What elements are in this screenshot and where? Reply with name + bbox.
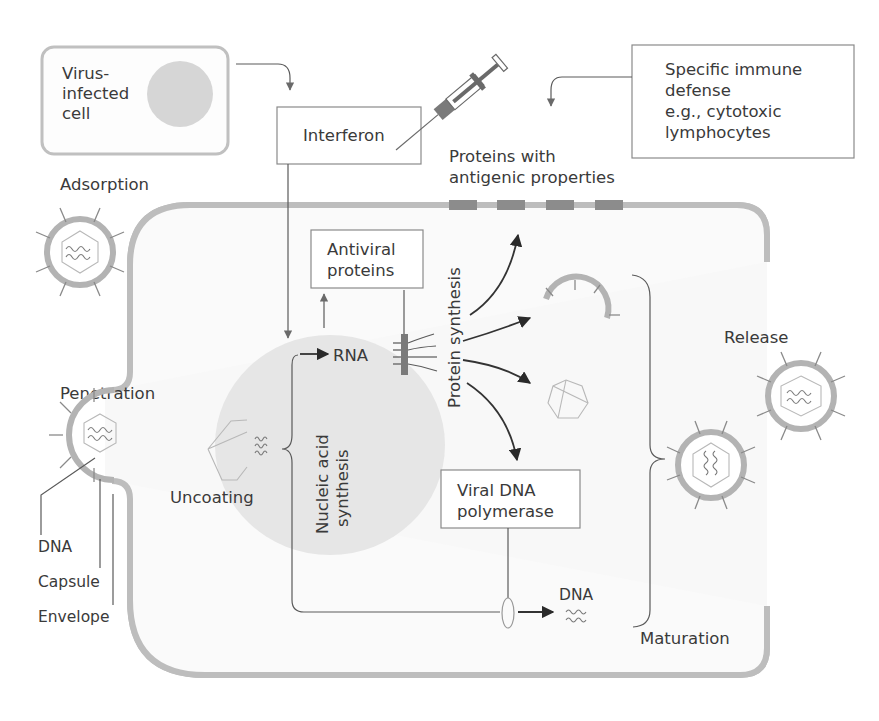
infected-cell-label-3: cell bbox=[62, 104, 90, 123]
viral-dna-polymerase-box: Viral DNA polymerase bbox=[441, 470, 580, 528]
polymerase-label-1: Viral DNA bbox=[457, 481, 536, 500]
part-envelope-label: Envelope bbox=[38, 608, 110, 626]
dna-product-label: DNA bbox=[559, 586, 594, 604]
stage-uncoating-label: Uncoating bbox=[170, 488, 254, 507]
antiviral-proteins-box: Antiviral proteins bbox=[311, 230, 423, 288]
part-capsule-label: Capsule bbox=[38, 573, 100, 591]
nucleic-acid-label-1: Nucleic acid bbox=[313, 434, 332, 534]
immune-label-2: defense bbox=[665, 81, 731, 100]
stage-adsorption-label: Adsorption bbox=[60, 175, 149, 194]
protein-synthesis-label: Protein synthesis bbox=[445, 267, 464, 408]
virion-adsorption-icon bbox=[36, 208, 124, 296]
antiviral-label-1: Antiviral bbox=[327, 240, 396, 259]
interferon-label: Interferon bbox=[303, 126, 385, 145]
immune-to-antigen-arrow bbox=[551, 77, 632, 106]
polymerase-label-2: polymerase bbox=[457, 502, 554, 521]
part-dna-label: DNA bbox=[38, 538, 73, 556]
virus-infected-cell: Virus- infected cell bbox=[42, 47, 228, 154]
stage-release-label: Release bbox=[724, 328, 788, 347]
released-virion-icon bbox=[757, 352, 845, 440]
immune-defense-box: Specific immune defense e.g., cytotoxic … bbox=[632, 45, 854, 158]
stage-penetration-label: Penetration bbox=[60, 384, 155, 403]
infected-to-interferon-arrow bbox=[236, 64, 290, 90]
nucleic-acid-label-2: synthesis bbox=[333, 449, 352, 527]
antigenic-label-2: antigenic properties bbox=[449, 168, 615, 187]
immune-label-4: lymphocytes bbox=[665, 123, 771, 142]
infected-nucleus-icon bbox=[147, 61, 213, 127]
immune-label-1: Specific immune bbox=[665, 60, 802, 79]
infected-cell-label-1: Virus- bbox=[62, 64, 109, 83]
infected-cell-label-2: infected bbox=[62, 84, 129, 103]
rna-label: RNA bbox=[333, 346, 369, 365]
stage-maturation-label: Maturation bbox=[640, 629, 730, 648]
antiviral-label-2: proteins bbox=[327, 261, 394, 280]
viral-replication-diagram: Virus- infected cell Interferon Specific… bbox=[0, 0, 879, 721]
interferon-box: Interferon bbox=[277, 107, 421, 164]
antigenic-label-1: Proteins with bbox=[449, 147, 556, 166]
immune-label-3: e.g., cytotoxic bbox=[665, 102, 781, 121]
